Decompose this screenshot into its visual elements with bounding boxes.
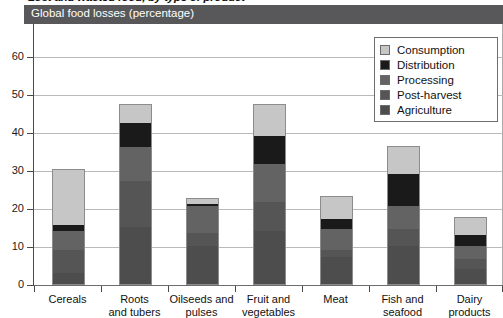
y-tick-label-0: 0	[0, 278, 24, 290]
y-tick-30	[27, 171, 34, 172]
bar-segment[interactable]	[321, 250, 352, 258]
x-label-line: Roots	[101, 293, 168, 306]
legend-item-distribution[interactable]: Distribution	[380, 57, 492, 72]
legend-label: Agriculture	[397, 104, 452, 116]
x-tick	[34, 286, 35, 292]
bar-segment[interactable]	[187, 206, 218, 233]
legend-label: Distribution	[397, 59, 455, 71]
bar-segment[interactable]	[53, 273, 84, 284]
bar-segment[interactable]	[53, 231, 84, 250]
x-label-line: Oilseeds and	[168, 293, 235, 306]
bar-stack[interactable]	[320, 196, 353, 285]
bar-segment[interactable]	[388, 206, 419, 229]
bar-segment[interactable]	[388, 174, 419, 206]
x-label-line: seafood	[369, 306, 436, 318]
bar-segment[interactable]	[321, 219, 352, 229]
x-axis-label-fish-and-seafood: Fish andseafood	[369, 293, 436, 318]
x-label-line: Cereals	[34, 293, 101, 306]
bar-segment[interactable]	[254, 202, 285, 231]
y-tick-60	[27, 57, 34, 58]
bar-segment[interactable]	[187, 246, 218, 284]
legend-swatch-icon	[380, 90, 390, 100]
bar-segment[interactable]	[321, 257, 352, 284]
bar-segment[interactable]	[254, 164, 285, 202]
y-tick-label-40: 40	[0, 126, 24, 138]
bar-segment[interactable]	[53, 250, 84, 273]
x-label-line: Dairy	[436, 293, 503, 306]
x-label-line: and tubers	[101, 306, 168, 318]
legend-swatch-icon	[380, 45, 390, 55]
x-axis-label-oilseeds-and-pulses: Oilseeds andpulses	[168, 293, 235, 318]
bar-stack[interactable]	[387, 146, 420, 285]
chart-legend: ConsumptionDistributionProcessingPost-ha…	[374, 37, 498, 122]
bar-segment[interactable]	[455, 259, 486, 269]
legend-swatch-icon	[380, 60, 390, 70]
bar-segment[interactable]	[254, 231, 285, 284]
bar-segment[interactable]	[120, 123, 151, 148]
legend-label: Post-harvest	[397, 89, 462, 101]
bar-segment[interactable]	[53, 170, 84, 225]
x-label-line: Fish and	[369, 293, 436, 306]
y-tick-label-50: 50	[0, 88, 24, 100]
bar-stack[interactable]	[52, 169, 85, 285]
x-label-line: Meat	[302, 293, 369, 306]
y-tick-label-60: 60	[0, 50, 24, 62]
y-tick-50	[27, 95, 34, 96]
bar-segment[interactable]	[120, 227, 151, 284]
y-tick-0	[27, 285, 34, 286]
bar-segment[interactable]	[388, 147, 419, 174]
legend-label: Consumption	[397, 44, 465, 56]
x-axis-label-cereals: Cereals	[34, 293, 101, 306]
panel-header-band: Global food losses (percentage)	[24, 5, 503, 24]
x-tick	[235, 286, 236, 292]
bar-stack[interactable]	[119, 104, 152, 285]
bar-segment[interactable]	[187, 233, 218, 246]
bar-segment[interactable]	[120, 105, 151, 122]
x-axis: CerealsRootsand tubersOilseeds andpulses…	[34, 286, 503, 317]
legend-label: Processing	[397, 74, 454, 86]
y-tick-40	[27, 133, 34, 134]
y-tick-label-20: 20	[0, 202, 24, 214]
legend-item-agriculture[interactable]: Agriculture	[380, 102, 492, 117]
x-label-line: vegetables	[235, 306, 302, 318]
x-axis-label-roots-and-tubers: Rootsand tubers	[101, 293, 168, 318]
legend-item-post-harvest[interactable]: Post-harvest	[380, 87, 492, 102]
bar-segment[interactable]	[321, 229, 352, 250]
x-tick	[168, 286, 169, 292]
bar-stack[interactable]	[253, 104, 286, 285]
y-tick-20	[27, 209, 34, 210]
bar-stack[interactable]	[186, 198, 219, 286]
legend-swatch-icon	[380, 75, 390, 85]
x-axis-label-dairy-products: Dairyproducts	[436, 293, 503, 318]
x-tick	[436, 286, 437, 292]
legend-item-consumption[interactable]: Consumption	[380, 42, 492, 57]
bar-segment[interactable]	[254, 105, 285, 135]
x-label-line: Fruit and	[235, 293, 302, 306]
bar-stack[interactable]	[454, 217, 487, 286]
bar-segment[interactable]	[321, 197, 352, 220]
legend-item-processing[interactable]: Processing	[380, 72, 492, 87]
bar-segment[interactable]	[120, 181, 151, 227]
x-axis-label-meat: Meat	[302, 293, 369, 306]
y-tick-10	[27, 247, 34, 248]
panel-title: Global food losses (percentage)	[31, 7, 194, 19]
x-tick	[101, 286, 102, 292]
bar-segment[interactable]	[388, 229, 419, 246]
bar-segment[interactable]	[254, 136, 285, 165]
bar-segment[interactable]	[388, 246, 419, 284]
bar-segment[interactable]	[455, 235, 486, 246]
y-tick-label-30: 30	[0, 164, 24, 176]
x-label-line: products	[436, 306, 503, 318]
x-tick	[369, 286, 370, 292]
bar-segment[interactable]	[455, 218, 486, 235]
figure-super-title: Lost and wasted food, by type of product	[28, 0, 245, 4]
y-tick-label-10: 10	[0, 240, 24, 252]
x-tick	[302, 286, 303, 292]
bar-segment[interactable]	[120, 147, 151, 181]
bar-segment[interactable]	[455, 269, 486, 284]
bar-segment[interactable]	[455, 246, 486, 259]
x-label-line: pulses	[168, 306, 235, 318]
x-axis-label-fruit-and-vegetables: Fruit andvegetables	[235, 293, 302, 318]
legend-swatch-icon	[380, 105, 390, 115]
